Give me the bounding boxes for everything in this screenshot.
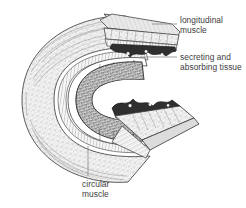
gut-wall-figure: longitudinal muscle secreting and absorb… xyxy=(0,0,246,208)
label-secreting-line2: absorbing tissue xyxy=(180,62,242,72)
label-longitudinal-line2: muscle xyxy=(180,25,223,35)
label-longitudinal-line1: longitudinal xyxy=(180,15,223,25)
label-secreting-line1: secreting and xyxy=(180,52,242,62)
label-secreting-absorbing-tissue: secreting and absorbing tissue xyxy=(180,52,242,72)
label-circular-line1: circular xyxy=(82,179,109,189)
label-circular-line2: muscle xyxy=(82,189,109,199)
label-longitudinal-muscle: longitudinal muscle xyxy=(180,15,223,35)
label-circular-muscle: circular muscle xyxy=(82,179,109,199)
top-cut-arm-group xyxy=(100,14,180,57)
